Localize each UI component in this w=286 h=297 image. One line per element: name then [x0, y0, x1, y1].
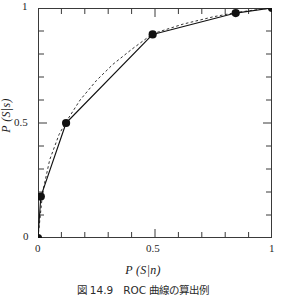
data-point-marker — [38, 234, 42, 238]
x-tick-label-1: 1 — [269, 243, 275, 254]
roc-plot-svg — [38, 8, 272, 238]
x-axis-title-argument: (S|n) — [136, 263, 161, 277]
x-axis-title: P (S|n) — [0, 263, 286, 278]
plot-area — [38, 8, 272, 238]
data-point-marker — [149, 30, 157, 38]
fitted-roc-dashed-curve — [38, 8, 272, 238]
y-tick-label-05: 0.5 — [14, 117, 28, 128]
x-tick-label-0: 0 — [35, 243, 41, 254]
y-axis-title-argument: (S|s) — [0, 98, 13, 121]
data-point-marker — [62, 119, 70, 127]
y-axis-title-symbol: P — [0, 125, 13, 133]
y-axis-title: P (S|s) — [0, 84, 14, 148]
data-point-markers — [38, 8, 272, 238]
empirical-roc-solid-line — [38, 8, 272, 238]
x-tick-label-05: 0.5 — [146, 243, 160, 254]
data-point-marker — [268, 8, 272, 12]
x-axis-title-symbol: P — [125, 263, 133, 277]
figure-caption: 図 14.9 ROC 曲線の算出例 — [0, 282, 286, 297]
y-axis-ticks-right — [263, 31, 272, 215]
y-tick-label-0: 0 — [23, 231, 29, 242]
y-tick-label-1: 1 — [22, 1, 28, 12]
data-point-marker — [38, 193, 45, 201]
plot-frame — [39, 9, 272, 238]
x-axis-ticks-bottom — [61, 229, 248, 238]
data-point-marker — [232, 9, 240, 17]
y-axis-ticks-left — [38, 31, 47, 215]
